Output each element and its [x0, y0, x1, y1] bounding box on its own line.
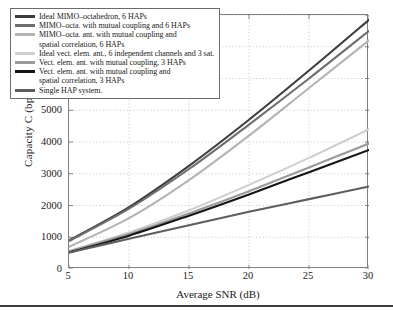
legend-item: spatial correlation, 3 HAPs: [15, 76, 214, 85]
curve-series-6: [69, 186, 369, 252]
legend-item-label: Ideal vect. elem. ant., 6 independent ch…: [39, 49, 214, 58]
legend-swatch-placeholder: [15, 79, 35, 82]
footer-rule: [0, 305, 393, 307]
legend-item: Vect. elem. ant. with mutual coupling an…: [15, 67, 214, 76]
legend-item: MIMO–octa. ant. with mutual coupling and: [15, 30, 214, 39]
y-tick-label: 5000: [6, 104, 62, 115]
y-tick-label: 0: [6, 263, 62, 274]
legend-swatch-icon: [15, 61, 35, 64]
legend-item-label: spatial correlation, 3 HAPs: [39, 76, 124, 85]
legend-swatch-icon: [15, 24, 35, 27]
legend-swatch-icon: [15, 33, 35, 36]
y-tick-label: 2000: [6, 199, 62, 210]
legend-swatch-placeholder: [15, 43, 35, 46]
legend-item: MIMO–octa. with mutual coupling and 6 HA…: [15, 21, 214, 30]
legend-swatch-icon: [15, 70, 35, 73]
legend-item: Ideal MIMO–octahedron, 6 HAPs: [15, 12, 214, 21]
x-tick-label: 25: [303, 270, 314, 281]
y-tick-label: 1000: [6, 231, 62, 242]
legend-item-label: MIMO–octa. ant. with mutual coupling and: [39, 30, 177, 39]
legend-item: Single HAP system.: [15, 86, 214, 95]
x-tick-label: 5: [65, 270, 70, 281]
legend-item: Vect. elem. ant. with mutual coupling, 3…: [15, 58, 214, 67]
legend-item-label: Vect. elem. ant. with mutual coupling, 3…: [39, 58, 186, 67]
x-axis-title-text: Average SNR (dB): [176, 288, 260, 300]
x-tick-label: 20: [243, 270, 254, 281]
legend-item-label: Ideal MIMO–octahedron, 6 HAPs: [39, 12, 147, 21]
y-tick-label: 3000: [6, 167, 62, 178]
legend-swatch-icon: [15, 15, 35, 18]
x-tick-label: 15: [183, 270, 194, 281]
y-tick-label: 4000: [6, 136, 62, 147]
legend-item-label: spatial correlation, 6 HAPs: [39, 40, 124, 49]
legend-swatch-icon: [15, 52, 35, 55]
capacity-vs-snr-figure: Capacity C (bps) 01000200030004000500060…: [0, 0, 393, 316]
x-axis-title: Average SNR (dB): [68, 288, 368, 300]
x-tick-label: 30: [363, 270, 374, 281]
legend-item-label: Vect. elem. ant. with mutual coupling an…: [39, 67, 170, 76]
x-tick-label: 10: [123, 270, 134, 281]
legend-item-label: MIMO–octa. with mutual coupling and 6 HA…: [39, 21, 190, 30]
legend-item: Ideal vect. elem. ant., 6 independent ch…: [15, 49, 214, 58]
legend-swatch-icon: [15, 89, 35, 92]
legend-item: spatial correlation, 6 HAPs: [15, 40, 214, 49]
y-axis-title-text: Capacity C (bps): [22, 89, 34, 167]
legend-item-label: Single HAP system.: [39, 86, 102, 95]
chart-legend: Ideal MIMO–octahedron, 6 HAPsMIMO–octa. …: [10, 8, 220, 99]
